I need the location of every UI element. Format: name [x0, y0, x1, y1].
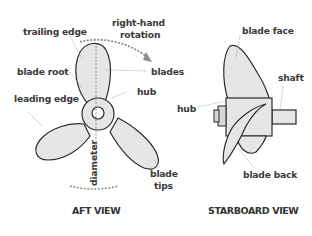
label-diameter: diameter [89, 140, 99, 186]
label-blade-tips-line2: tips [154, 180, 173, 191]
label-blades: blades [151, 66, 184, 77]
label-rotation-line2: rotation [120, 29, 160, 40]
label-blade-back: blade back [243, 169, 297, 180]
diameter-arc [70, 186, 118, 189]
shaft [272, 110, 296, 124]
left-blade [36, 124, 90, 160]
label-trailing-edge: trailing edge [23, 26, 87, 37]
label-blade-face: blade face [242, 25, 294, 36]
top-blade [76, 43, 111, 104]
shaft-bore [92, 107, 104, 119]
right-blade [110, 118, 158, 169]
label-blade-root: blade root [17, 66, 68, 77]
upper-blade [224, 45, 270, 100]
label-leading-edge: leading edge [14, 93, 79, 104]
label-shaft: shaft [278, 72, 304, 83]
label-blade-tips-line1: blade [150, 168, 178, 179]
aft-view-title: AFT VIEW [72, 205, 120, 216]
label-hub-aft: hub [137, 86, 156, 97]
starboard-view-title: STARBOARD VIEW [208, 205, 298, 216]
label-rotation-line1: right-hand [112, 17, 165, 28]
starboard-view-propeller [198, 36, 296, 168]
label-hub-starboard: hub [177, 103, 196, 114]
rotation-arrowhead [143, 52, 152, 62]
